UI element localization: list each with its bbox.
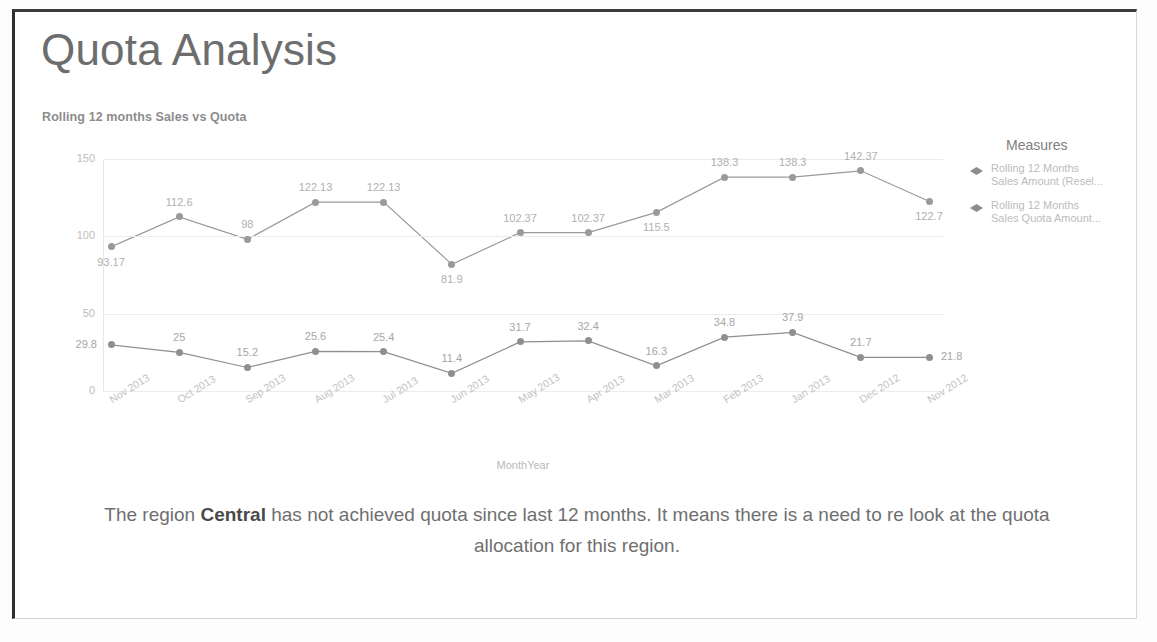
data-point[interactable] [653,209,660,216]
data-point-label: 21.7 [850,336,871,348]
caption-text-before: The region [104,504,200,525]
data-point-label: 31.7 [509,321,530,333]
chart-title: Rolling 12 months Sales vs Quota [42,110,247,124]
data-point[interactable] [517,229,524,236]
data-point-label: 102.37 [571,212,605,224]
data-point-label: 34.8 [714,316,735,328]
data-point-label: 32.4 [577,320,598,332]
slide-caption: The region Central has not achieved quot… [67,499,1087,561]
data-point-label: 37.9 [782,311,803,323]
chart-series-lines [103,159,943,391]
slide-content: Quota Analysis Rolling 12 months Sales v… [15,12,1136,618]
data-point[interactable] [312,199,319,206]
data-point-label: 98 [241,218,253,230]
data-point-label: 112.6 [166,196,193,208]
y-axis-tick-label: 100 [55,229,95,241]
data-point-label: 25.6 [305,330,326,342]
chart-container: 050100150Nov 2013Oct 2013Sep 2013Aug 201… [15,137,1140,487]
data-point[interactable] [789,174,796,181]
data-point[interactable] [789,329,796,336]
data-point[interactable] [721,334,728,341]
data-point-label: 122.7 [915,210,943,222]
x-axis-title: MonthYear [103,459,943,471]
diamond-marker-icon [970,167,983,175]
data-point[interactable] [585,229,592,236]
slide-frame: Quota Analysis Rolling 12 months Sales v… [12,9,1137,619]
chart-gridline [103,314,943,315]
caption-highlight-region: Central [200,504,265,525]
data-point-label: 11.4 [442,352,463,364]
diamond-marker-icon [970,204,983,212]
y-axis-tick-label: 50 [55,307,95,319]
data-point-label: 138.3 [779,156,807,168]
y-axis-tick-label: 150 [55,152,95,164]
legend-item[interactable]: Rolling 12 Months Sales Amount (Resel... [970,162,1140,187]
chart-plot-area: 050100150Nov 2013Oct 2013Sep 2013Aug 201… [103,159,943,391]
data-point[interactable] [926,198,933,205]
data-point-label: 138.3 [711,156,739,168]
data-point-label: 122.13 [367,181,401,193]
data-point[interactable] [108,243,115,250]
legend-title: Measures [1006,137,1140,153]
data-point[interactable] [380,199,387,206]
caption-text-after: has not achieved quota since last 12 mon… [266,504,1050,556]
chart-gridline [103,236,943,237]
data-point-label: 16.3 [646,345,667,357]
data-point[interactable] [721,174,728,181]
slide-page: Quota Analysis Rolling 12 months Sales v… [0,0,1157,642]
data-point[interactable] [176,349,183,356]
data-point-label: 81.9 [441,273,462,285]
data-point-label: 21.8 [941,350,962,362]
data-point-label: 93.17 [97,256,125,268]
data-point[interactable] [244,364,251,371]
data-point-label: 25 [173,331,185,343]
data-point[interactable] [926,354,933,361]
legend-item[interactable]: Rolling 12 Months Sales Quota Amount... [970,199,1140,224]
legend-item-label: Rolling 12 Months Sales Amount (Resel... [991,162,1103,187]
data-point[interactable] [244,236,251,243]
data-point[interactable] [176,213,183,220]
data-point-label: 102.37 [503,212,537,224]
data-point-label: 15.2 [237,346,258,358]
chart-gridline [103,159,943,160]
page-title: Quota Analysis [41,25,337,75]
data-point[interactable] [108,341,115,348]
data-point-label: 122.13 [299,181,333,193]
y-axis-tick-label: 0 [55,384,95,396]
data-point-label: 142.37 [844,150,878,162]
data-point-label: 29.8 [76,338,97,350]
legend-items: Rolling 12 Months Sales Amount (Resel...… [970,162,1140,224]
data-point-label: 25.4 [373,331,394,343]
legend-item-label: Rolling 12 Months Sales Quota Amount... [991,199,1101,224]
chart-legend: Measures Rolling 12 Months Sales Amount … [970,137,1140,236]
data-point-label: 115.5 [643,221,670,233]
data-point[interactable] [312,348,319,355]
